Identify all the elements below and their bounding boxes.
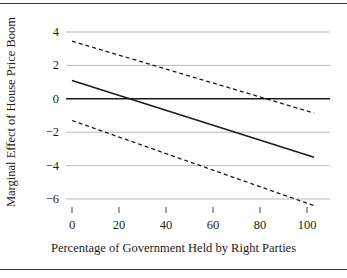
y-tick-label: −2 [30,126,59,139]
x-tick-label: 0 [69,219,75,232]
x-axis-tick-marks [72,207,307,213]
gridlines-group [66,32,330,199]
x-tick-label: 40 [160,219,173,232]
y-tick-label: −6 [30,193,59,206]
x-axis-title: Percentage of Government Held by Right P… [0,241,347,256]
y-tick-label: 4 [30,26,59,39]
y-tick-label: −4 [30,159,59,172]
figure-container: 420−2−4−6 020406080100 Percentage of Gov… [0,0,347,278]
series-line [72,80,314,157]
y-tick-label: 0 [30,93,59,106]
x-tick-label: 60 [207,219,220,232]
y-axis-title: Marginal Effect of House Price Boom [4,0,26,232]
x-tick-label: 20 [113,219,126,232]
series-line [72,121,314,206]
plot-area [0,0,347,278]
y-tick-label: 2 [30,59,59,72]
x-tick-label: 80 [254,219,267,232]
series-line [72,41,314,113]
x-tick-label: 100 [298,219,317,232]
